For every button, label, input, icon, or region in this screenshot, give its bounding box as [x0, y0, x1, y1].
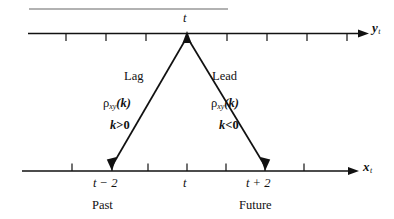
lead-rho-argument: (k) [224, 96, 239, 110]
bottom-axis-ticks [72, 164, 304, 172]
lag-condition: k>0 [110, 119, 130, 132]
lag-condition-value: 0 [123, 118, 129, 132]
lead-condition-value: 0 [232, 118, 238, 132]
bottom-axis-arrowhead [348, 167, 359, 175]
lag-correlation-expression: ρxy(k) [103, 97, 131, 111]
top-axis-ticks [66, 34, 347, 42]
diagram-canvas [0, 0, 394, 219]
top-axis-group [28, 30, 369, 42]
bottom-tick-label-t-plus-2: t + 2 [246, 177, 270, 190]
lag-heading: Lag [124, 70, 143, 83]
past-label: Past [92, 199, 113, 212]
bottom-axis-label-subscript: t [370, 166, 372, 175]
top-axis-arrowhead [358, 30, 369, 38]
bottom-axis-label-var: x [363, 159, 370, 174]
future-label: Future [239, 199, 272, 212]
lag-lead-connector [107, 31, 270, 171]
bottom-axis-group [22, 164, 359, 176]
lead-correlation-expression: ρxy(k) [211, 97, 239, 111]
lag-rho-argument: (k) [116, 96, 131, 110]
bottom-tick-label-t-minus-2: t − 2 [93, 177, 117, 190]
lead-condition: k<0 [219, 119, 239, 132]
cross-correlation-lag-lead-diagram: t yt Lag Lead ρxy(k) k>0 ρxy(k) k<0 t − … [0, 0, 394, 219]
top-axis-label-subscript: t [378, 27, 380, 36]
top-axis-label-var: y [372, 20, 378, 35]
bottom-axis-label: xt [363, 160, 372, 175]
top-axis-label: yt [372, 21, 381, 36]
apex-tick-label: t [183, 12, 186, 25]
bottom-tick-label-t: t [183, 177, 186, 190]
lead-heading: Lead [212, 70, 237, 83]
